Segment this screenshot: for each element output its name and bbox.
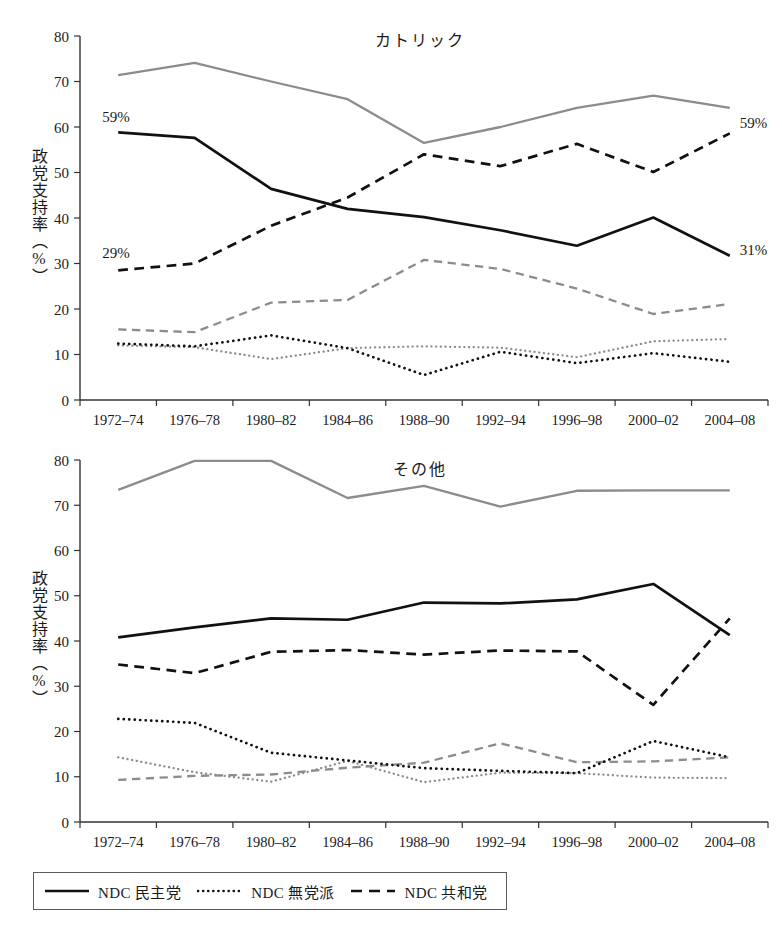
- chart-title: その他: [393, 461, 447, 478]
- y-tick-label: 70: [54, 74, 69, 90]
- x-tick-label: 1996–98: [552, 412, 603, 428]
- legend-entry-0: NDC 民主党: [44, 881, 181, 902]
- y-tick-label: 30: [54, 256, 69, 272]
- y-tick-label: 20: [54, 724, 69, 740]
- series-line: [118, 584, 730, 637]
- y-tick-label: 80: [54, 29, 69, 45]
- x-tick-label: 1984–86: [322, 412, 373, 428]
- y-tick-label: 10: [54, 347, 69, 363]
- x-tick-label: 1992–94: [475, 834, 527, 850]
- chart-title: カトリック: [375, 32, 465, 49]
- x-tick-label: 1980–82: [246, 834, 297, 850]
- chart-legend: NDC 民主党 NDC 無党派 NDC 共和党: [33, 872, 507, 910]
- y-tick-label: 60: [54, 543, 69, 559]
- series-line: [118, 719, 730, 773]
- legend-entry-2: NDC 共和党: [350, 881, 487, 902]
- y-tick-label: 30: [54, 679, 69, 695]
- y-axis-label-catholic: 政党支持率（%）: [30, 148, 46, 285]
- chart-catholic-svg: 010203040506070801972–741976–781980–8219…: [0, 0, 782, 440]
- figure-page: 010203040506070801972–741976–781980–8219…: [0, 0, 782, 930]
- series-line: [118, 260, 730, 332]
- x-tick-label: 1988–90: [399, 412, 450, 428]
- x-tick-label: 2004–08: [704, 834, 755, 850]
- x-tick-label: 1972–74: [93, 412, 145, 428]
- x-tick-label: 1992–94: [475, 412, 527, 428]
- value-annotation: 31%: [740, 242, 768, 258]
- y-tick-label: 20: [54, 302, 69, 318]
- y-tick-label: 40: [54, 634, 69, 650]
- x-tick-label: 1980–82: [246, 412, 297, 428]
- series-line: [118, 339, 730, 359]
- legend-label-1: NDC 無党派: [251, 881, 334, 902]
- x-tick-label: 2000–02: [628, 834, 679, 850]
- y-tick-label: 10: [54, 769, 69, 785]
- y-tick-label: 70: [54, 498, 69, 514]
- series-line: [118, 618, 730, 704]
- x-tick-label: 1976–78: [169, 834, 220, 850]
- value-annotation: 59%: [740, 115, 768, 131]
- x-tick-label: 1976–78: [169, 412, 220, 428]
- x-tick-label: 1988–90: [399, 834, 450, 850]
- legend-entry-1: NDC 無党派: [197, 881, 334, 902]
- series-line: [118, 335, 730, 375]
- y-tick-label: 0: [62, 815, 70, 831]
- series-line: [118, 63, 730, 143]
- value-annotation: 29%: [102, 245, 130, 261]
- x-tick-label: 1996–98: [552, 834, 603, 850]
- y-tick-label: 50: [54, 588, 69, 604]
- y-tick-label: 0: [62, 393, 70, 409]
- y-tick-label: 50: [54, 165, 69, 181]
- y-tick-label: 40: [54, 211, 69, 227]
- chart-catholic: 010203040506070801972–741976–781980–8219…: [0, 0, 782, 440]
- series-line: [118, 132, 730, 255]
- y-tick-label: 80: [54, 453, 69, 469]
- legend-label-2: NDC 共和党: [404, 881, 487, 902]
- x-tick-label: 1972–74: [93, 834, 145, 850]
- value-annotation: 59%: [102, 109, 130, 125]
- legend-label-0: NDC 民主党: [98, 881, 181, 902]
- x-tick-label: 2000–02: [628, 412, 679, 428]
- chart-other: 010203040506070801972–741976–781980–8219…: [0, 440, 782, 860]
- y-tick-label: 60: [54, 120, 69, 136]
- x-tick-label: 1984–86: [322, 834, 373, 850]
- y-axis-label-other: 政党支持率（%）: [30, 570, 46, 707]
- series-line: [118, 133, 730, 270]
- dotted-line-swatch: [197, 885, 243, 897]
- chart-other-svg: 010203040506070801972–741976–781980–8219…: [0, 440, 782, 860]
- x-tick-label: 2004–08: [704, 412, 755, 428]
- solid-line-swatch: [44, 885, 90, 897]
- dashed-line-swatch: [350, 885, 396, 897]
